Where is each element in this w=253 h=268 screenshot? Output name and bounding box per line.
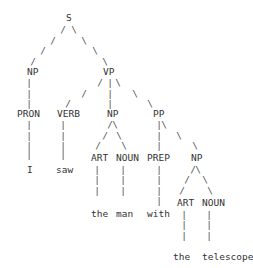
tree-node-np1: NP xyxy=(27,67,38,77)
leaf-word: the xyxy=(173,252,190,262)
right-branch-glyph: \ xyxy=(147,99,153,109)
vertical-branch-glyph: | xyxy=(26,120,32,130)
vertical-branch-glyph: | xyxy=(156,175,162,185)
right-branch-glyph: \ xyxy=(132,89,138,99)
right-branch-glyph: \ xyxy=(195,165,201,175)
left-branch-glyph: / xyxy=(95,141,101,151)
leaf-word: saw xyxy=(56,165,73,175)
left-branch-glyph: / xyxy=(81,89,87,99)
vertical-branch-glyph: | xyxy=(156,196,162,206)
left-branch-glyph: / xyxy=(179,186,185,196)
vertical-branch-glyph: | xyxy=(26,150,32,160)
right-branch-glyph: \ xyxy=(121,141,127,151)
right-branch-glyph: \ xyxy=(202,175,208,185)
tree-node-pron: PRON xyxy=(17,109,40,119)
left-branch-glyph: / xyxy=(60,25,66,35)
leaf-word: with xyxy=(147,209,170,219)
tree-node-np2: NP xyxy=(107,109,118,119)
vertical-branch-glyph: | xyxy=(181,231,187,241)
right-branch-glyph: \ xyxy=(92,46,98,56)
tree-node-noun1: NOUN xyxy=(116,153,139,163)
left-branch-glyph: / xyxy=(50,36,56,46)
vertical-branch-glyph: | xyxy=(181,220,187,230)
vertical-branch-glyph: | xyxy=(26,78,32,88)
right-branch-glyph: \ xyxy=(207,186,213,196)
vertical-branch-glyph: | xyxy=(120,186,126,196)
vertical-branch-glyph: | xyxy=(206,231,212,241)
leaf-word: telescope xyxy=(202,252,253,262)
tree-node-vp: VP xyxy=(103,67,114,77)
right-branch-glyph: \ xyxy=(192,141,198,151)
tree-node-np3: NP xyxy=(191,153,202,163)
left-branch-glyph: / xyxy=(184,175,190,185)
left-branch-glyph: / xyxy=(102,131,108,141)
tree-node-pp: PP xyxy=(153,109,164,119)
left-branch-glyph: / xyxy=(40,46,46,56)
leaf-word: the xyxy=(91,209,108,219)
tree-node-art2: ART xyxy=(177,198,194,208)
tree-node-art1: ART xyxy=(91,153,108,163)
right-branch-glyph: \ xyxy=(71,25,77,35)
vertical-branch-glyph: | xyxy=(60,150,66,160)
tree-node-s: S xyxy=(66,13,72,23)
vertical-branch-glyph: | xyxy=(120,175,126,185)
right-branch-glyph: \ xyxy=(176,131,182,141)
right-branch-glyph: \ xyxy=(112,120,118,130)
tree-node-prep: PREP xyxy=(147,153,170,163)
leaf-word: I xyxy=(27,165,33,175)
vertical-branch-glyph: | xyxy=(60,120,66,130)
vertical-branch-glyph: | xyxy=(156,141,162,151)
tree-node-noun2: NOUN xyxy=(202,198,225,208)
parse-tree-diagram: /\/\/\/\|||/|\/|\/|\||||||||/\/\/\|\|\|\… xyxy=(0,0,253,268)
left-branch-glyph: / xyxy=(97,78,103,88)
vertical-branch-glyph: | xyxy=(94,175,100,185)
right-branch-glyph: \ xyxy=(115,78,121,88)
vertical-branch-glyph: | xyxy=(107,78,113,88)
vertical-branch-glyph: | xyxy=(206,220,212,230)
right-branch-glyph: \ xyxy=(161,120,167,130)
tree-node-verb: VERB xyxy=(57,109,80,119)
vertical-branch-glyph: | xyxy=(94,186,100,196)
leaf-word: man xyxy=(116,209,133,219)
right-branch-glyph: \ xyxy=(81,36,87,46)
